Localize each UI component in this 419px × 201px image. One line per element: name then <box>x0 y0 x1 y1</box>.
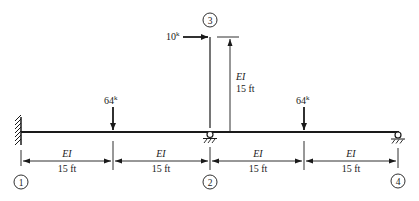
load-horizontal-unit: k <box>176 30 180 38</box>
node-4-label: 4 <box>391 174 405 188</box>
column-length: 15 ft <box>236 83 255 94</box>
pin-support-icon <box>203 132 217 144</box>
span-1-stiffness: EI <box>61 148 72 159</box>
load-left-value: 64 <box>104 95 114 106</box>
node-1-number: 1 <box>19 178 24 188</box>
load-horizontal-value: 10 <box>166 31 176 42</box>
load-right-value: 64 <box>296 95 306 106</box>
load-left: 64k <box>104 94 118 130</box>
load-left-unit: k <box>114 94 118 102</box>
span-3-stiffness: EI <box>252 148 263 159</box>
span-4-length: 15 ft <box>342 163 361 174</box>
span-2-length: 15 ft <box>152 163 171 174</box>
span-3-length: 15 ft <box>249 163 268 174</box>
node-3-label: 3 <box>203 13 217 27</box>
svg-text:10k: 10k <box>166 30 180 42</box>
svg-text:64k: 64k <box>296 94 310 106</box>
svg-text:64k: 64k <box>104 94 118 106</box>
span-1-length: 15 ft <box>58 163 77 174</box>
node-2-number: 2 <box>208 178 213 188</box>
roller-support-icon <box>391 132 405 144</box>
column-dimension: EI 15 ft <box>217 37 255 131</box>
node-1-label: 1 <box>14 175 28 189</box>
node-4-number: 4 <box>396 177 401 187</box>
load-right: 64k <box>296 94 310 130</box>
column-stiffness: EI <box>235 71 246 82</box>
span-4-stiffness: EI <box>345 148 356 159</box>
span-2-stiffness: EI <box>155 148 166 159</box>
node-2-label: 2 <box>203 175 217 189</box>
load-right-unit: k <box>306 94 310 102</box>
load-horizontal: 10k <box>166 30 208 42</box>
fixed-support-icon <box>15 115 21 145</box>
node-3-number: 3 <box>208 16 213 26</box>
frame-diagram: 64k 64k 10k EI 15 ft EI 15 ft EI 15 f <box>0 0 419 201</box>
